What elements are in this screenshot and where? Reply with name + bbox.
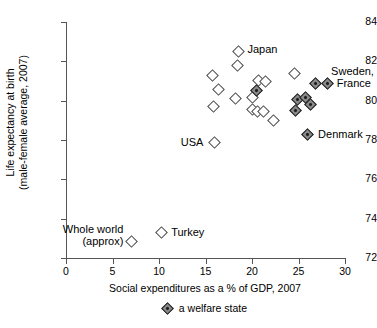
point-label: Sweden,	[331, 65, 374, 77]
point-label: Japan	[247, 43, 277, 55]
chart-legend: a welfare state	[40, 302, 370, 314]
x-tick-label: 10	[144, 266, 174, 277]
x-tick	[299, 259, 300, 264]
x-tick	[252, 259, 253, 264]
x-tick-label: 0	[51, 266, 81, 277]
x-tick-label: 15	[191, 266, 221, 277]
x-axis-title: Social expenditures as a % of GDP, 2007	[40, 282, 370, 294]
x-tick	[345, 259, 346, 264]
point-label: USA	[0, 136, 203, 148]
x-tick-label: 30	[330, 266, 360, 277]
point-label: Whole world	[0, 223, 123, 235]
x-tick	[159, 259, 160, 264]
point-label: (approx)	[0, 235, 123, 247]
x-tick-label: 5	[98, 266, 128, 277]
y-axis-title-line2: (male-female average, 2007)	[16, 23, 29, 223]
y-axis-title-line1: Life expectancy at birth	[4, 23, 17, 223]
x-tick-label: 20	[237, 266, 267, 277]
x-tick	[66, 259, 67, 264]
point-label: Turkey	[171, 226, 204, 238]
point-label: Denmark	[318, 128, 363, 140]
scatter-chart-figure: 72747678808284 051015202530 Life expecta…	[0, 0, 377, 328]
y-axis-title: Life expectancy at birth (male-female av…	[4, 23, 29, 223]
x-tick	[113, 259, 114, 264]
point-label: France	[337, 77, 371, 89]
legend-label-welfare-state: a welfare state	[179, 302, 247, 314]
x-tick	[206, 259, 207, 264]
x-tick-label: 25	[284, 266, 314, 277]
welfare-state-diamond-icon	[161, 302, 174, 315]
